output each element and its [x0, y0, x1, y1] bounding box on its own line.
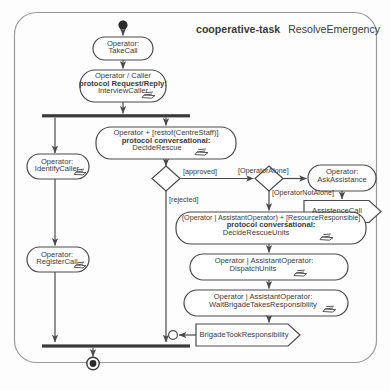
- activity-decide-rescue-shape: [96, 127, 236, 159]
- activity-dispatch-units-shape: [190, 254, 348, 280]
- activity-wait-brigade-shape: [184, 290, 348, 316]
- activity-ask-assistance-shape: [308, 165, 376, 191]
- fork-bar-icon: [42, 114, 190, 117]
- activity-take-call-shape: [93, 37, 153, 60]
- receive-signal-brigade-took-responsibility-shape: [196, 324, 300, 346]
- join-bar-icon: [42, 344, 190, 347]
- activity-register-call-shape: [27, 247, 89, 272]
- activity-diagram-canvas: cooperative-task ResolveEmergency Operat…: [0, 0, 390, 391]
- diagram-vector-layer: [0, 0, 390, 391]
- final-node-inner-icon: [90, 360, 97, 367]
- decision-diamond-operator-alone-icon: [255, 166, 283, 191]
- initial-node-icon: [118, 20, 127, 29]
- decision-diamond-approved-icon: [152, 166, 180, 191]
- activity-decide-rescue-units-shape: [176, 212, 366, 244]
- merge-junction-icon: [169, 331, 178, 340]
- activity-identify-caller-shape: [27, 154, 89, 179]
